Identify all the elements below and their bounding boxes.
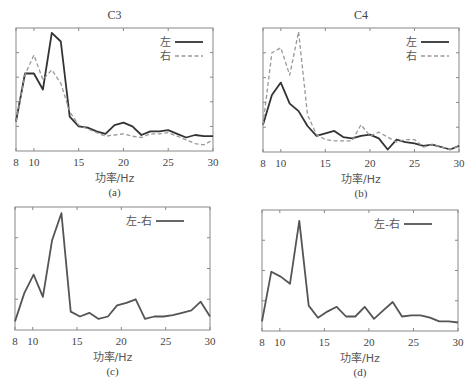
x-axis-label: 功率/Hz: [341, 172, 381, 186]
x-tick-label: 10: [28, 156, 40, 168]
x-tick-label: 15: [319, 336, 331, 348]
x-tick-label: 25: [409, 157, 421, 169]
x-tick-label: 30: [453, 336, 465, 348]
figure-canvas: C381015202530左右功率/Hz(a)C481015202530左右功率…: [0, 0, 471, 386]
legend-label: 右: [406, 49, 417, 63]
x-tick-label: 20: [118, 156, 130, 168]
x-tick-label: 10: [275, 157, 287, 169]
series-line-0: [15, 213, 210, 321]
x-tick-label: 30: [454, 157, 466, 169]
x-tick-label: 15: [72, 335, 84, 347]
x-axis-label: 功率/Hz: [93, 350, 133, 364]
x-tick-label: 20: [364, 157, 376, 169]
x-tick-label: 15: [73, 156, 85, 168]
series-line-0: [16, 33, 213, 138]
chart-c: 81015202530左-右功率/Hz(c): [12, 207, 216, 378]
legend-label: 左: [160, 36, 171, 49]
x-tick-label: 10: [27, 335, 39, 347]
x-tick-label: 8: [259, 336, 265, 348]
x-tick-label: 8: [13, 156, 19, 168]
x-axis-label: 功率/Hz: [95, 171, 135, 185]
x-tick-label: 25: [163, 156, 175, 168]
x-tick-label: 25: [160, 335, 172, 347]
x-tick-label: 10: [274, 336, 286, 348]
chart-title: C3: [107, 8, 121, 22]
legend-label: 左-右: [374, 217, 400, 231]
subfigure-caption: (b): [355, 187, 368, 200]
series-line-1: [263, 32, 459, 150]
x-axis-label: 功率/Hz: [340, 351, 380, 365]
x-tick-label: 30: [208, 156, 220, 168]
x-tick-label: 25: [408, 336, 420, 348]
subfigure-caption: (a): [108, 186, 121, 199]
series-line-0: [262, 221, 458, 323]
x-tick-label: 8: [260, 157, 266, 169]
chart-title: C4: [354, 8, 368, 22]
chart-d: 81015202530左-右功率/Hz(d): [259, 210, 464, 379]
legend-label: 右: [160, 49, 171, 63]
legend-label: 左: [406, 36, 417, 49]
subfigure-caption: (c): [106, 365, 119, 378]
series-line-0: [263, 83, 459, 150]
chart-b: C481015202530左右功率/Hz(b): [260, 8, 465, 200]
legend-label: 左-右: [126, 214, 152, 228]
x-tick-label: 30: [205, 335, 217, 347]
axes-frame: [16, 28, 213, 151]
chart-a: C381015202530左右功率/Hz(a): [13, 8, 219, 199]
subfigure-caption: (d): [354, 366, 367, 379]
x-tick-label: 8: [12, 335, 18, 347]
x-tick-label: 15: [320, 157, 332, 169]
x-tick-label: 20: [363, 336, 375, 348]
axes-frame: [263, 28, 459, 152]
x-tick-label: 20: [116, 335, 128, 347]
